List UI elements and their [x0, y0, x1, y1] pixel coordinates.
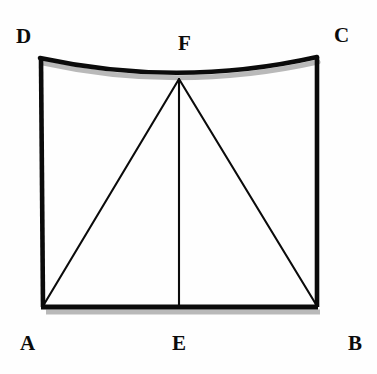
vertex-label-C: C [334, 25, 349, 46]
vertex-label-B: B [348, 333, 362, 354]
vertex-label-E: E [172, 333, 186, 354]
geometry-figure: D C F A E B [0, 0, 377, 374]
segment-FA [43, 79, 179, 306]
segment-DA [41, 58, 43, 307]
vertex-label-A: A [20, 333, 35, 354]
vertex-label-D: D [16, 26, 31, 47]
figure-canvas [0, 0, 377, 374]
segment-FB [179, 79, 317, 306]
vertex-label-F: F [178, 33, 191, 54]
